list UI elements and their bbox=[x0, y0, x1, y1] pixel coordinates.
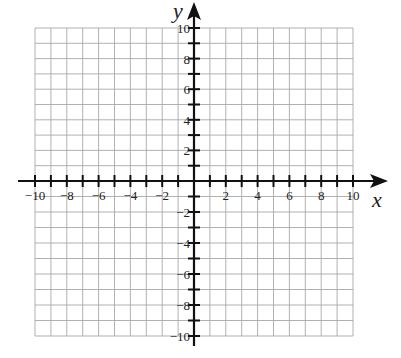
y-tick-label: −8 bbox=[176, 298, 190, 313]
x-tick-label: −4 bbox=[123, 188, 137, 203]
x-tick-label: 2 bbox=[223, 188, 230, 203]
x-tick-label: 4 bbox=[254, 188, 261, 203]
y-tick-label: −10 bbox=[170, 329, 190, 344]
x-tick-label: 6 bbox=[286, 188, 293, 203]
y-tick-label: 10 bbox=[177, 21, 190, 36]
x-tick-label: 10 bbox=[347, 188, 360, 203]
tick-labels: −10−8−6−4−2246810108642−2−4−6−8−10 bbox=[25, 21, 360, 344]
y-tick-label: −4 bbox=[176, 236, 190, 251]
x-tick-label: −8 bbox=[60, 188, 74, 203]
y-tick-label: −6 bbox=[176, 267, 190, 282]
y-tick-label: −2 bbox=[176, 205, 190, 220]
y-tick-label: 8 bbox=[184, 52, 191, 67]
x-tick-label: −2 bbox=[155, 188, 169, 203]
y-axis-label: y bbox=[171, 0, 183, 23]
x-tick-label: −6 bbox=[92, 188, 106, 203]
x-axis-label: x bbox=[371, 187, 382, 212]
coordinate-plane: −10−8−6−4−2246810108642−2−4−6−8−10 x y bbox=[0, 0, 401, 358]
y-tick-label: 4 bbox=[184, 113, 191, 128]
y-tick-label: 6 bbox=[184, 82, 191, 97]
y-tick-label: 2 bbox=[184, 143, 191, 158]
x-tick-label: 8 bbox=[318, 188, 325, 203]
x-tick-label: −10 bbox=[25, 188, 45, 203]
